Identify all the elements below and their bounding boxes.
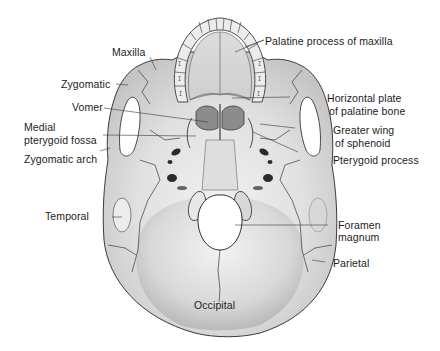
svg-text:ɪ: ɪ <box>179 89 182 98</box>
label-greater-wing-line2: of sphenoid <box>335 137 390 149</box>
label-zygomatic-arch: Zygomatic arch <box>24 153 97 165</box>
label-foramen-magnum-line2: magnum <box>338 231 379 243</box>
label-horizontal-plate-line2: of palatine bone <box>329 105 405 117</box>
svg-text:ɪ: ɪ <box>258 74 261 83</box>
label-parietal: Parietal <box>333 257 369 269</box>
foramen-magnum <box>198 195 242 250</box>
svg-text:ɪ: ɪ <box>257 89 260 98</box>
label-occipital: Occipital <box>194 299 235 311</box>
label-foramen-magnum-line1: Foramen <box>338 219 381 231</box>
left-mastoid-process <box>113 198 131 232</box>
label-temporal: Temporal <box>45 210 89 222</box>
label-vomer: Vomer <box>72 101 103 113</box>
label-horizontal-plate-line1: Horizontal plate <box>327 92 402 104</box>
label-maxilla: Maxilla <box>112 46 145 58</box>
label-palatine-process-of-maxilla: Palatine process of maxilla <box>265 35 393 47</box>
label-zygomatic: Zygomatic <box>61 78 110 90</box>
right-mastoid-process <box>309 198 327 232</box>
svg-text:ɪ: ɪ <box>178 59 181 68</box>
label-medial-pterygoid-fossa-line1: Medial <box>24 121 56 133</box>
label-pterygoid-process: Pterygoid process <box>333 154 419 166</box>
label-greater-wing-line1: Greater wing <box>333 124 394 136</box>
svg-text:ɪ: ɪ <box>258 59 261 68</box>
svg-text:ɪ: ɪ <box>178 74 181 83</box>
basilar-part <box>202 140 238 190</box>
label-medial-pterygoid-fossa-line2: pterygoid fossa <box>24 134 97 146</box>
skull-diagram: ɪ ɪ ɪ ɪ ɪ ɪ <box>0 0 440 351</box>
